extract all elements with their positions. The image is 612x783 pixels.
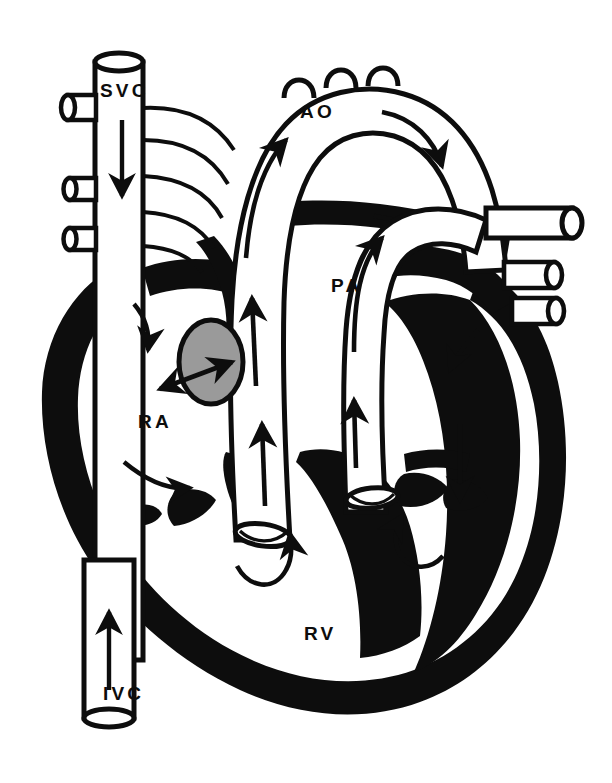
pa-flow-arrow-lower — [354, 400, 356, 468]
heart-diagram-figure: SVC IVC AO PA RA RV LA LV — [0, 0, 612, 783]
foramen-ovale-oval — [179, 320, 243, 404]
label-svc: SVC — [100, 80, 149, 101]
aorta-flow-arrow-lower — [262, 424, 265, 506]
label-la: LA — [469, 383, 501, 404]
svc-tube-opening — [95, 53, 143, 71]
label-ao: AO — [300, 101, 335, 122]
label-rv: RV — [304, 623, 336, 644]
foramen-ovale — [160, 320, 243, 404]
label-ra: RA — [138, 411, 172, 432]
mitral-valve-leaflet — [394, 473, 448, 507]
svc-tributary-stubs — [61, 95, 96, 250]
heart-anatomy-illustration: SVC IVC AO PA RA RV LA LV — [0, 0, 612, 783]
figure-caption — [0, 769, 612, 783]
label-ivc: IVC — [103, 683, 144, 704]
ivc-tube-opening — [84, 709, 134, 727]
tricuspid-valve-leaflet-2 — [167, 489, 216, 526]
label-pa: PA — [331, 275, 362, 296]
label-lv: LV — [466, 573, 495, 594]
